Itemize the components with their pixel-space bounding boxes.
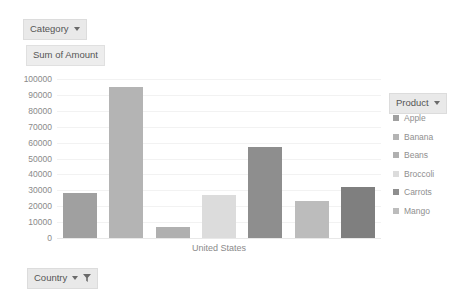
bar[interactable] (156, 227, 190, 238)
y-axis: 1000009000080000700006000050000400003000… (0, 74, 52, 244)
legend-swatch (393, 208, 399, 214)
legend-label: Broccoli (404, 169, 434, 179)
legend-label: Carrots (404, 187, 432, 197)
y-axis-tick: 50000 (0, 154, 52, 164)
x-axis-label: United States (57, 243, 381, 253)
chevron-down-icon[interactable] (74, 27, 80, 31)
y-axis-tick: 10000 (0, 217, 52, 227)
legend: AppleBananaBeansBroccoliCarrotsMango (393, 113, 434, 216)
legend-item[interactable]: Apple (393, 113, 434, 123)
chevron-down-icon[interactable] (72, 276, 78, 280)
country-field-label: Country (34, 273, 67, 283)
legend-item[interactable]: Broccoli (393, 169, 434, 179)
legend-swatch (393, 152, 399, 158)
legend-swatch (393, 134, 399, 140)
category-field-label: Category (30, 24, 69, 34)
legend-item[interactable]: Beans (393, 150, 434, 160)
measure-field-label[interactable]: Sum of Amount (26, 45, 105, 66)
legend-swatch (393, 171, 399, 177)
legend-label: Mango (404, 206, 430, 216)
y-axis-tick: 40000 (0, 169, 52, 179)
gridline (57, 238, 381, 239)
y-axis-tick: 70000 (0, 122, 52, 132)
product-field-button[interactable]: Product (389, 93, 447, 114)
bar[interactable] (109, 87, 143, 238)
bar[interactable] (341, 187, 375, 238)
y-axis-tick: 80000 (0, 106, 52, 116)
category-field-button[interactable]: Category (23, 19, 87, 40)
y-axis-tick: 100000 (0, 74, 52, 84)
y-axis-tick: 0 (0, 233, 52, 243)
chevron-down-icon[interactable] (434, 101, 440, 105)
bar[interactable] (295, 201, 329, 238)
bar[interactable] (248, 147, 282, 238)
country-field-button[interactable]: Country (27, 268, 98, 289)
legend-swatch (393, 115, 399, 121)
bar-series (57, 79, 381, 238)
y-axis-tick: 60000 (0, 138, 52, 148)
legend-label: Beans (404, 150, 428, 160)
bar[interactable] (63, 193, 97, 238)
plot-area (57, 79, 381, 238)
product-field-label: Product (396, 98, 429, 108)
legend-label: Apple (404, 113, 426, 123)
y-axis-tick: 30000 (0, 185, 52, 195)
measure-field-text: Sum of Amount (33, 50, 98, 60)
legend-label: Banana (404, 132, 433, 142)
bar[interactable] (202, 195, 236, 238)
filter-funnel-icon[interactable] (83, 274, 91, 282)
y-axis-tick: 20000 (0, 201, 52, 211)
legend-item[interactable]: Banana (393, 132, 434, 142)
legend-item[interactable]: Carrots (393, 187, 434, 197)
legend-item[interactable]: Mango (393, 206, 434, 216)
legend-swatch (393, 189, 399, 195)
y-axis-tick: 90000 (0, 90, 52, 100)
